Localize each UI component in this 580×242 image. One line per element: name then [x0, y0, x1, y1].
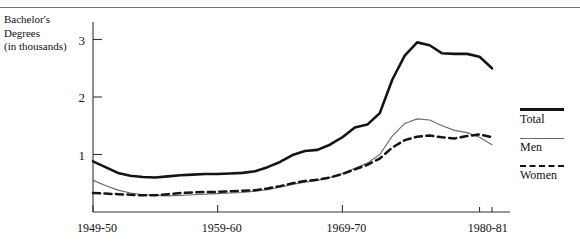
tick-labels-layer: 1231949-501959-601969-701980-81 — [77, 33, 508, 236]
legend-label-men: Men — [520, 139, 578, 155]
x-tick-label-0: 1949-50 — [77, 221, 117, 235]
legend-swatch-total-icon — [520, 104, 564, 111]
series-line-total — [93, 42, 492, 177]
legend-label-women: Women — [520, 167, 578, 183]
x-tick-label-3: 1980-81 — [468, 221, 508, 235]
legend-entry-total: Total — [520, 104, 578, 127]
legend-swatch-men-icon — [520, 132, 564, 139]
series-layer — [93, 42, 492, 196]
chart-plot-area: 1231949-501959-601969-701980-81 — [0, 0, 580, 242]
legend-entry-women: Women — [520, 160, 578, 183]
y-tick-label-3: 3 — [79, 33, 86, 48]
legend-entry-men: Men — [520, 132, 578, 155]
x-tick-label-2: 1969-70 — [326, 221, 366, 235]
x-tick-label-1: 1959-60 — [202, 221, 242, 235]
legend-label-total: Total — [520, 111, 578, 127]
series-line-women — [93, 134, 492, 195]
y-tick-label-1: 1 — [79, 148, 86, 163]
legend-swatch-women-icon — [520, 160, 564, 167]
chart-legend: Total Men Women — [520, 104, 578, 188]
chart-figure: Bachelor's Degrees (in thousands) 123194… — [0, 0, 580, 242]
axes-layer — [93, 22, 510, 212]
y-tick-label-2: 2 — [79, 90, 86, 105]
